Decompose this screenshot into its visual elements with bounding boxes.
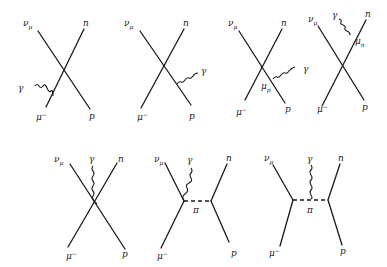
proton-label: p: [231, 248, 237, 258]
muon-label: μ−: [317, 103, 328, 114]
neutron-muon-line: [46, 29, 84, 107]
neutron-label: n: [281, 18, 287, 28]
photon-label: γ: [18, 83, 24, 93]
neutron-label: n: [365, 9, 371, 19]
proton-line: [211, 201, 229, 242]
proton-line: [328, 200, 342, 245]
photon-label: γ: [332, 10, 338, 20]
muon-line: [280, 200, 293, 246]
neutron-label: n: [338, 153, 344, 163]
photon-label: γ: [89, 154, 95, 164]
diagram-3: νμ n γ μp μ− p: [228, 18, 309, 117]
photon-wavy-line: [35, 85, 53, 97]
proton-label: p: [362, 102, 368, 112]
photon-wavy-line: [183, 168, 192, 200]
neutrino-proton-line: [140, 31, 191, 105]
photon-label: γ: [201, 66, 207, 76]
nu-mu-label: νμ: [228, 18, 237, 31]
photon-wavy-line: [177, 73, 198, 84]
nu-mu-label: νμ: [264, 153, 273, 166]
nu-mu-label: νμ: [308, 14, 317, 27]
nu-mu-label: νμ: [23, 18, 32, 31]
neutron-line: [328, 164, 340, 200]
diagram-7: νμ γ n π μ− p: [264, 153, 346, 258]
photon-label: γ: [307, 154, 313, 164]
diagram-5: νμ γ n μ− p: [54, 154, 128, 261]
muon-label: μ−: [157, 250, 168, 261]
diagram-1: νμ n γ μ− p: [18, 18, 95, 122]
nu-mu-label: νμ: [124, 18, 133, 31]
diagram-4: νμ γ n μn μ− p: [308, 9, 371, 114]
neutron-line: [211, 164, 227, 201]
proton-label: p: [189, 111, 195, 121]
diagram-6: νμ γ n π μ− p: [154, 153, 237, 261]
neutrino-line: [273, 165, 293, 200]
muon-label: μ−: [137, 111, 148, 122]
diagram-2: νμ n γ μ− p: [124, 18, 207, 122]
muon-line: [161, 201, 184, 248]
neutrino-proton-line: [70, 164, 125, 249]
muon-label: μ−: [269, 247, 280, 258]
mu-n-vertex-label: μn: [355, 36, 365, 48]
photon-wavy-line: [273, 67, 295, 79]
nu-mu-label: νμ: [54, 154, 63, 167]
proton-label: p: [285, 104, 291, 114]
pion-label: π: [192, 205, 200, 215]
photon-wavy-line: [339, 19, 350, 35]
muon-label: μ−: [66, 250, 77, 261]
mu-p-vertex-label: μp: [261, 81, 271, 94]
photon-label: γ: [303, 64, 309, 74]
proton-label: p: [89, 111, 95, 121]
feynman-diagram-figure: νμ n γ μ− p νμ n γ μ− p νμ n γ μp μ− p ν…: [0, 0, 387, 267]
nu-mu-label: νμ: [154, 154, 163, 167]
neutron-muon-line: [68, 163, 117, 247]
proton-label: p: [340, 246, 346, 256]
muon-label: μ−: [236, 106, 247, 117]
muon-label: μ−: [36, 111, 47, 122]
photon-wavy-line: [310, 165, 312, 199]
neutron-label: n: [83, 18, 89, 28]
neutron-label: n: [183, 18, 189, 28]
pion-label: π: [306, 205, 314, 215]
neutron-label: n: [118, 154, 124, 164]
proton-label: p: [122, 249, 128, 259]
neutron-label: n: [226, 153, 232, 163]
neutrino-line: [165, 163, 184, 201]
photon-label: γ: [187, 155, 193, 165]
